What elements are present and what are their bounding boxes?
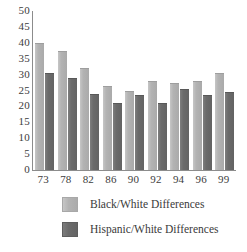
legend-label: Black/White Differences [90,198,204,211]
x-axis-line [32,170,236,171]
bar-group [80,0,101,170]
y-axis: 50454035302520151050 [8,0,30,190]
bars-layer [33,0,236,170]
x-axis-tick-label: 92 [144,173,168,186]
bar-group [35,0,56,170]
y-axis-tick-label: 25 [8,85,30,96]
plot-area: 50454035302520151050 737882869092949699 [0,0,247,190]
legend-item-black-white: Black/White Differences [62,196,204,212]
bar-group [148,0,169,170]
chart-legend: Black/White Differences Hispanic/White D… [0,192,247,252]
legend-swatch-icon-dark [62,222,78,237]
legend-swatch-icon-light [62,197,78,212]
x-axis-tick-label: 90 [122,173,146,186]
x-axis-tick-label: 94 [167,173,191,186]
x-axis-tick-label: 86 [99,173,123,186]
legend-label: Hispanic/White Differences [90,223,218,236]
y-axis-tick-label: 30 [8,69,30,80]
x-axis-tick-label: 82 [76,173,100,186]
x-axis: 737882869092949699 [33,173,236,189]
y-axis-tick-label: 45 [8,21,30,32]
bar [125,91,134,171]
y-axis-tick-label: 50 [8,5,30,16]
bar [58,51,67,170]
bar-group [125,0,146,170]
y-axis-tick-label: 15 [8,116,30,127]
bar [35,43,44,170]
bar [45,73,54,170]
y-axis-tick-label: 10 [8,132,30,143]
bar [103,86,112,170]
y-axis-tick-label: 20 [8,100,30,111]
bar-chart: 50454035302520151050 737882869092949699 … [0,0,247,252]
bar [135,95,144,170]
x-axis-tick-label: 99 [212,173,236,186]
x-axis-tick-label: 96 [189,173,213,186]
bar [215,73,224,170]
legend-item-hispanic-white: Hispanic/White Differences [62,221,218,237]
x-axis-tick-label: 73 [31,173,55,186]
bar [158,103,167,170]
bar-group [103,0,124,170]
bar [90,94,99,170]
bar [180,89,189,170]
bar [80,68,89,170]
bar-group [215,0,236,170]
y-axis-tick-label: 0 [8,164,30,175]
bar-group [193,0,214,170]
bar [148,81,157,170]
bar [170,83,179,170]
y-axis-tick-label: 35 [8,53,30,64]
bar [225,92,234,170]
bar-group [170,0,191,170]
bar [203,95,212,170]
y-axis-tick-label: 5 [8,148,30,159]
y-axis-tick-label: 40 [8,37,30,48]
bar [113,103,122,170]
bar-group [58,0,79,170]
bar [68,78,77,170]
bar [193,81,202,170]
x-axis-tick-label: 78 [54,173,78,186]
